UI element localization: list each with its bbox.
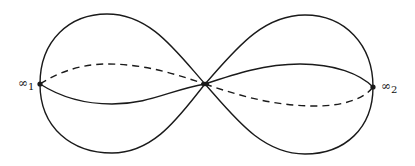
left-lobe-upper-curve <box>40 14 205 84</box>
infinity-2-label: ∞2 <box>381 80 397 95</box>
subscript: 1 <box>28 81 34 92</box>
diagram-canvas: ∞1 ∞2 <box>0 0 415 166</box>
right-lobe-lower-curve <box>205 84 373 154</box>
infinity-1-label: ∞1 <box>18 77 34 92</box>
left-point-dot <box>37 81 42 86</box>
left-inner-solid-curve <box>40 84 205 104</box>
figure-eight-diagram <box>0 0 415 166</box>
right-inner-solid-curve <box>205 64 373 87</box>
left-lobe-lower-curve <box>40 84 205 153</box>
infinity-symbol: ∞ <box>18 76 28 90</box>
left-dashed-curve <box>40 64 205 84</box>
right-dashed-curve <box>205 84 373 106</box>
infinity-symbol: ∞ <box>381 79 391 93</box>
right-point-dot <box>370 84 375 89</box>
center-point-dot <box>201 82 209 86</box>
subscript: 2 <box>391 84 397 95</box>
